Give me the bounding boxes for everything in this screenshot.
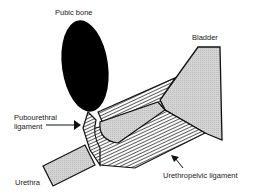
- bladder-label: Bladder: [192, 33, 218, 42]
- urethropelvic-arrow: [171, 155, 183, 168]
- pubic-bone-label: Pubic bone: [55, 8, 93, 17]
- pubourethral-label-line2: ligament: [14, 122, 42, 131]
- urethropelvic-label: Urethropelvic ligament: [163, 171, 238, 180]
- urethra-tube: [43, 145, 95, 186]
- anatomy-diagram: [0, 0, 263, 195]
- pubic-bone-shape: [56, 17, 114, 115]
- urethra-label: Urethra: [15, 178, 40, 187]
- pubourethral-label-line1: Pubourethral: [14, 113, 57, 122]
